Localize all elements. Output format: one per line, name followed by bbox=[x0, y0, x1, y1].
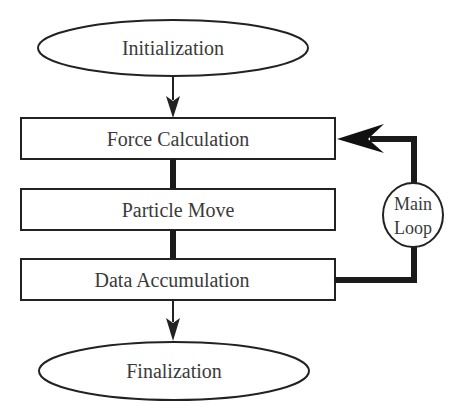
main-loop-label-line2: Loop bbox=[394, 218, 432, 238]
finalization-label: Finalization bbox=[126, 360, 222, 382]
data-accumulation-label: Data Accumulation bbox=[95, 269, 250, 291]
connector-particle-to-data bbox=[170, 230, 176, 259]
connector-force-to-particle bbox=[170, 159, 176, 189]
flowchart-diagram: Initialization Force Calculation Particl… bbox=[0, 0, 474, 413]
node-force-calculation: Force Calculation bbox=[21, 118, 335, 159]
main-loop-label-line1: Main bbox=[394, 194, 432, 214]
node-finalization: Finalization bbox=[39, 342, 309, 400]
arrow-data-to-final bbox=[166, 300, 180, 341]
arrow-init-to-force bbox=[166, 76, 180, 118]
particle-move-label: Particle Move bbox=[122, 199, 235, 221]
node-data-accumulation: Data Accumulation bbox=[21, 259, 335, 300]
node-particle-move: Particle Move bbox=[21, 189, 335, 230]
node-main-loop: Main Loop bbox=[383, 183, 443, 247]
force-calculation-label: Force Calculation bbox=[107, 128, 250, 150]
initialization-label: Initialization bbox=[122, 37, 224, 59]
node-initialization: Initialization bbox=[38, 20, 308, 76]
